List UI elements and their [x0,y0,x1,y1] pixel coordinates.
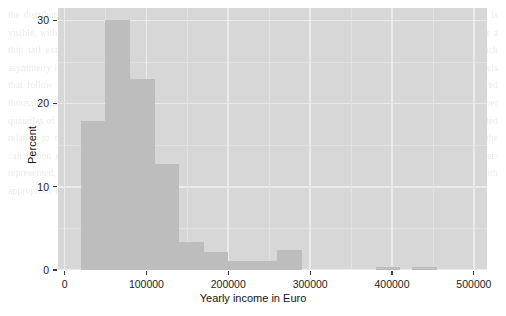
gridline-x-minor [269,8,270,270]
x-tick-mark [228,271,229,275]
gridline-x-major [391,8,393,270]
x-tick-mark [64,271,65,275]
gridline-x-minor [351,8,352,270]
histogram-bar [412,267,437,270]
histogram-bar [277,250,302,270]
histogram-bar [228,261,253,270]
gridline-x-major [64,8,66,270]
y-tick-label: 0 [43,265,49,276]
histogram-bar [179,242,204,270]
histogram-bar [204,252,229,270]
histogram-bar [253,261,278,270]
x-axis-title: Yearly income in Euro [0,292,506,304]
gridline-x-major [227,8,229,270]
gridline-x-major [309,8,311,270]
x-tick-label: 0 [62,279,68,290]
x-tick-mark [391,271,392,275]
histogram-figure: Percent 0102030 010000020000030000040000… [0,0,506,316]
histogram-bar [81,121,106,270]
x-tick-mark [146,271,147,275]
y-tick-label: 10 [37,182,49,193]
gridline-x-minor [187,8,188,270]
x-tick-mark [310,271,311,275]
x-tick-label: 400000 [374,279,409,290]
histogram-bar [155,164,180,270]
y-tick-mark [53,269,57,270]
gridline-x-major [473,8,475,270]
histogram-bar [105,20,130,270]
x-tick-label: 100000 [129,279,164,290]
y-tick-mark [53,103,57,104]
x-tick-label: 200000 [211,279,246,290]
histogram-bar [130,79,155,270]
histogram-bar [376,267,401,270]
y-axis-title: Percent [26,100,38,190]
y-tick-label: 30 [37,15,49,26]
plot-panel [58,8,487,270]
x-tick-mark [473,271,474,275]
y-tick-mark [53,20,57,21]
gridline-x-minor [433,8,434,270]
y-tick-mark [53,186,57,187]
x-tick-label: 500000 [456,279,491,290]
y-tick-label: 20 [37,98,49,109]
x-tick-label: 300000 [293,279,328,290]
